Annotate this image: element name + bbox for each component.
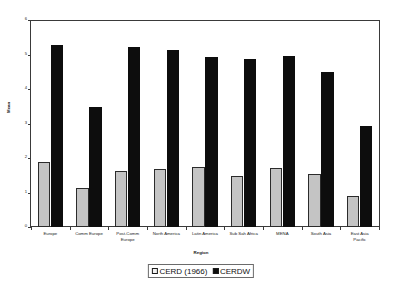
y-axis-tick: 0	[0, 227, 31, 228]
chart-legend: CERD (1966)CERDW	[148, 264, 254, 278]
bar	[89, 107, 102, 227]
y-axis-tick: 5	[0, 55, 31, 56]
legend-item[interactable]: CERDW	[212, 267, 250, 276]
x-tick-mark	[70, 227, 71, 230]
x-tick-mark	[302, 227, 303, 230]
bar	[167, 50, 180, 227]
bar	[154, 169, 167, 227]
bar	[231, 176, 244, 227]
bar-group	[308, 20, 334, 227]
bar	[115, 171, 128, 227]
y-axis-tick: 1	[0, 193, 31, 194]
bar-group	[347, 20, 373, 227]
bar	[283, 56, 296, 227]
bar	[321, 72, 334, 227]
x-tick-mark	[224, 227, 225, 230]
y-tick-label: 1	[25, 189, 27, 194]
x-axis-title: Region	[0, 250, 402, 255]
x-tick-mark	[186, 227, 187, 230]
bar-group	[38, 20, 64, 227]
y-axis-tick: 3	[0, 124, 31, 125]
y-axis-tick: 4	[0, 89, 31, 90]
bar-group	[270, 20, 296, 227]
bar	[347, 196, 360, 227]
legend-swatch-icon	[152, 268, 158, 274]
bar	[51, 45, 64, 227]
bar-group	[154, 20, 180, 227]
x-tick-mark	[108, 227, 109, 230]
bar	[192, 167, 205, 227]
y-axis-tick: 2	[0, 158, 31, 159]
y-tick-label: 3	[25, 120, 27, 125]
bar	[270, 168, 283, 227]
bar	[38, 162, 51, 227]
y-tick-label: 0	[25, 223, 27, 228]
y-axis: 0123456	[0, 14, 31, 234]
legend-swatch-icon	[212, 268, 218, 274]
bar-group	[231, 20, 257, 227]
legend-label: CERD (1966)	[159, 267, 207, 276]
y-tick-label: 4	[25, 85, 27, 90]
y-tick-label: 5	[25, 51, 27, 56]
x-axis-labels: EuropeComm EuropePost-CommEuropeNorth Am…	[31, 231, 379, 251]
legend-label: CERDW	[220, 267, 250, 276]
bar	[205, 57, 218, 227]
y-tick-label: 6	[25, 16, 27, 21]
bar	[76, 188, 89, 227]
x-tick-mark	[147, 227, 148, 230]
bar-group	[76, 20, 102, 227]
bar-chart-figure: 0123456 Mean EuropeComm EuropePost-CommE…	[0, 0, 402, 290]
x-axis-label: East AsiaPacific	[336, 231, 383, 242]
y-axis-tick: 6	[0, 20, 31, 21]
x-tick-mark	[31, 227, 32, 230]
x-tick-mark	[263, 227, 264, 230]
bar	[244, 59, 257, 227]
bars-layer	[31, 20, 379, 227]
x-tick-mark	[379, 227, 380, 230]
bar	[128, 47, 141, 227]
bar-group	[115, 20, 141, 227]
legend-item[interactable]: CERD (1966)	[152, 267, 208, 276]
x-tick-mark	[340, 227, 341, 230]
y-axis-title: Mean	[6, 102, 11, 113]
bar	[360, 126, 373, 227]
bar	[308, 174, 321, 227]
bar-group	[192, 20, 218, 227]
y-tick-label: 2	[25, 154, 27, 159]
